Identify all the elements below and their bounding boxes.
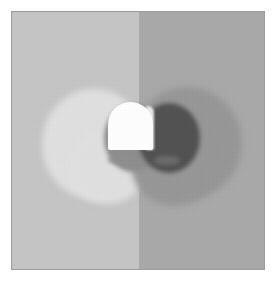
right-contact-shadow (154, 156, 180, 165)
image-frame (11, 11, 265, 270)
left-contact-shadow (108, 156, 132, 164)
stimulus-stage (12, 12, 264, 269)
white-dome (108, 102, 153, 150)
image-canvas (0, 0, 279, 291)
